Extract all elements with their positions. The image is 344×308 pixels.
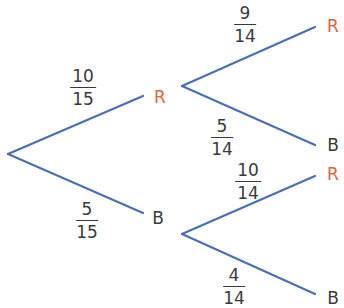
denominator: 15 <box>76 221 98 241</box>
prob-R-then-B: 5 14 <box>211 117 233 158</box>
branch-B-to-B <box>182 234 315 294</box>
prob-B-then-R: 10 14 <box>235 161 261 202</box>
numerator: 5 <box>80 200 95 220</box>
tree-branches <box>0 0 344 308</box>
prob-B-then-B: 4 14 <box>223 266 245 307</box>
node-first-B: B <box>152 209 164 227</box>
node-first-R: R <box>154 88 166 106</box>
prob-first-B: 5 15 <box>76 200 98 241</box>
denominator: 14 <box>211 138 233 158</box>
prob-first-R: 10 15 <box>70 67 96 108</box>
denominator: 15 <box>72 88 94 108</box>
numerator: 9 <box>238 4 253 24</box>
denominator: 14 <box>223 287 245 307</box>
prob-R-then-R: 9 14 <box>234 4 256 45</box>
probability-tree-diagram: 10 15 5 15 R B 9 14 5 14 R B 10 14 4 14 … <box>0 0 344 308</box>
node-B-then-R: R <box>327 165 339 183</box>
numerator: 4 <box>227 266 242 286</box>
node-R-then-B: B <box>327 136 339 154</box>
numerator: 10 <box>235 161 261 181</box>
node-B-then-B: B <box>327 289 339 307</box>
numerator: 10 <box>70 67 96 87</box>
denominator: 14 <box>234 25 256 45</box>
branch-R-to-B <box>182 86 315 145</box>
node-R-then-R: R <box>327 17 339 35</box>
numerator: 5 <box>215 117 230 137</box>
denominator: 14 <box>237 182 259 202</box>
